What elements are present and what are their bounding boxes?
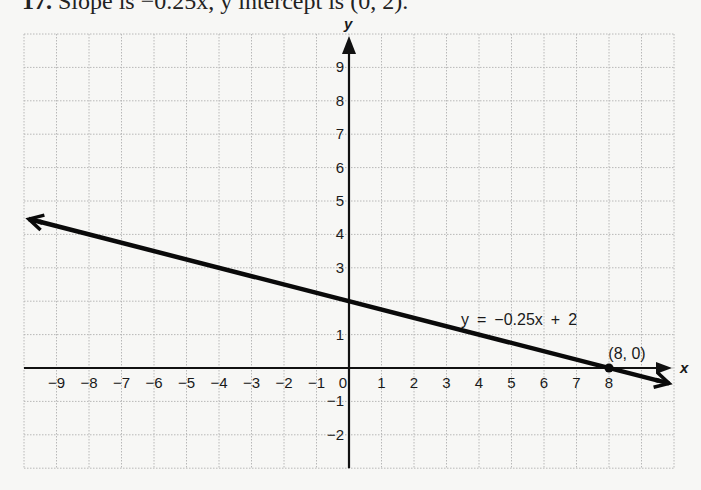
x-tick-label: 6 [540,374,548,391]
line-graph: xy −9−8−7−6−5−4−3−2−101234567898765431−1… [0,0,701,490]
intercept-point [605,364,614,373]
annotations: (8, 0)y = −0.25x + 2 [461,311,646,373]
y-tick-label: 6 [336,159,344,176]
y-tick-label: 9 [336,58,344,75]
x-tick-label: −5 [178,374,195,391]
y-tick-label: 8 [336,92,344,109]
x-tick-label: −4 [210,374,227,391]
x-tick-label: 4 [475,374,483,391]
x-tick-label: −8 [80,374,97,391]
equation-label: y = −0.25x + 2 [461,311,577,328]
y-tick-label: −2 [327,426,344,443]
x-tick-label: −9 [48,374,65,391]
x-tick-label: 3 [442,374,450,391]
y-tick-label: 1 [336,326,344,343]
x-tick-label: 1 [377,374,385,391]
x-tick-label: 5 [507,374,515,391]
x-tick-label: 8 [605,374,613,391]
x-tick-label: −6 [145,374,162,391]
x-axis-label: x [679,359,689,376]
x-tick-label: 0 [339,374,347,391]
x-tick-label: −1 [308,374,325,391]
point-label: (8, 0) [608,345,645,362]
x-tick-label: −2 [275,374,292,391]
x-tick-label: 7 [572,374,580,391]
y-tick-label: −1 [327,392,344,409]
y-tick-label: 4 [336,225,344,242]
y-tick-label: 3 [336,259,344,276]
x-tick-label: −7 [113,374,130,391]
y-tick-label: 5 [336,192,344,209]
y-tick-label: 7 [336,125,344,142]
x-tick-label: −3 [243,374,260,391]
y-axis-arrow-icon [342,36,356,54]
x-tick-label: 2 [410,374,418,391]
tick-labels: −9−8−7−6−5−4−3−2−101234567898765431−1−2 [48,58,613,442]
y-axis-label: y [343,15,353,32]
